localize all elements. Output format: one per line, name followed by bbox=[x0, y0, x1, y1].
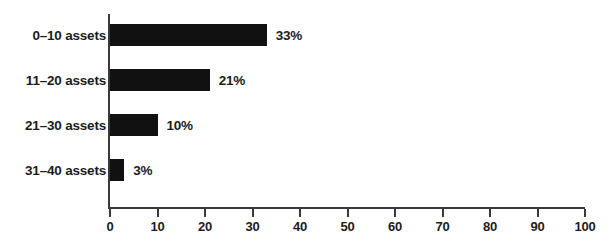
bar-row: 21–30 assets10% bbox=[0, 114, 614, 136]
x-axis-tick-label: 70 bbox=[435, 219, 449, 234]
x-axis-tick-label: 50 bbox=[340, 219, 354, 234]
bar-row: 31–40 assets3% bbox=[0, 159, 614, 181]
x-axis-tick bbox=[204, 209, 206, 217]
x-axis-tick bbox=[584, 209, 586, 217]
x-axis-tick-label: 90 bbox=[530, 219, 544, 234]
x-axis-tick bbox=[442, 209, 444, 217]
x-axis-tick-label: 100 bbox=[574, 219, 595, 234]
x-axis-tick-label: 0 bbox=[106, 219, 113, 234]
category-label: 31–40 assets bbox=[25, 163, 106, 178]
bar bbox=[110, 159, 124, 181]
x-axis-tick-label: 30 bbox=[245, 219, 259, 234]
x-axis-tick-label: 80 bbox=[483, 219, 497, 234]
bar-value-label: 21% bbox=[219, 73, 245, 88]
category-label: 0–10 assets bbox=[32, 28, 106, 43]
bar-row: 11–20 assets21% bbox=[0, 69, 614, 91]
bar bbox=[110, 69, 210, 91]
x-axis-tick bbox=[157, 209, 159, 217]
x-axis-tick bbox=[489, 209, 491, 217]
bar-chart: 0102030405060708090100 0–10 assets33%11–… bbox=[0, 0, 614, 250]
x-axis-tick-label: 10 bbox=[150, 219, 164, 234]
x-axis-tick bbox=[347, 209, 349, 217]
x-axis-tick-label: 40 bbox=[293, 219, 307, 234]
bar-value-label: 3% bbox=[133, 163, 152, 178]
x-axis-tick bbox=[299, 209, 301, 217]
category-label: 21–30 assets bbox=[25, 118, 106, 133]
bar bbox=[110, 24, 267, 46]
bar-value-label: 33% bbox=[276, 28, 302, 43]
x-axis-tick bbox=[109, 209, 111, 217]
x-axis-tick bbox=[252, 209, 254, 217]
x-axis-tick bbox=[537, 209, 539, 217]
bar bbox=[110, 114, 158, 136]
x-axis-tick bbox=[394, 209, 396, 217]
bar-row: 0–10 assets33% bbox=[0, 24, 614, 46]
category-label: 11–20 assets bbox=[26, 73, 106, 88]
bar-value-label: 10% bbox=[167, 118, 193, 133]
x-axis-tick-label: 60 bbox=[388, 219, 402, 234]
x-axis-tick-label: 20 bbox=[198, 219, 212, 234]
